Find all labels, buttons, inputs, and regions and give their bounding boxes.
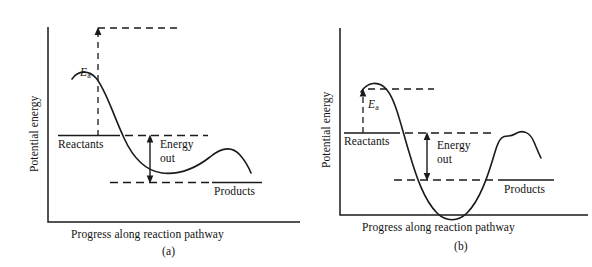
panel-a-activation-energy-label: Ea [80,66,91,79]
panel-b: Potential energy Ea Reactants Energy out… [296,0,592,267]
panel-a-y-axis-label: Potential energy [28,96,41,172]
panel-a-caption: (a) [162,245,175,258]
panel-a-plot [0,0,296,267]
panel-b-reactants-label: Reactants [344,135,390,148]
panel-a-x-axis-label: Progress along reaction pathway [71,228,224,241]
panel-a-energy-out-line1: Energy [160,138,194,152]
panel-a-energy-out-label: Energy out [160,138,194,165]
panel-b-caption: (b) [454,240,468,253]
panel-b-y-axis-label: Potential energy [320,92,333,168]
panel-a-activation-energy-subscript: a [87,71,91,80]
energy-diagram-figure: Potential energy Ea Reactants Energy out… [0,0,592,267]
panel-b-energy-out-line1: Energy [437,139,471,153]
panel-a-products-label: Products [214,185,255,198]
panel-b-energy-out-line2: out [437,153,471,167]
panel-a-energy-out-line2: out [160,152,194,166]
panel-b-activation-energy-label: Ea [368,98,379,111]
panel-b-x-axis-label: Progress along reaction pathway [362,221,515,234]
panel-b-axes [340,28,588,215]
panel-b-energy-out-label: Energy out [437,139,471,166]
panel-b-activation-energy-subscript: a [375,103,379,112]
panel-a-axes [48,27,300,222]
panel-b-products-label: Products [504,183,545,196]
panel-a: Potential energy Ea Reactants Energy out… [0,0,296,267]
panel-a-reactants-label: Reactants [58,138,104,151]
